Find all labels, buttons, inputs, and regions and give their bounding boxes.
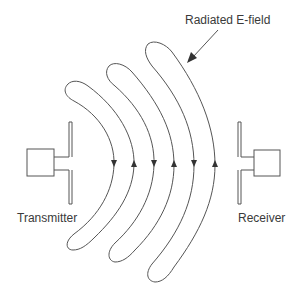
transmitter-antenna xyxy=(27,122,72,204)
arrow-up-icon xyxy=(131,160,137,167)
arrow-down-icon xyxy=(151,160,157,167)
arrow-down-icon xyxy=(191,160,197,167)
arrow-up-icon xyxy=(212,160,218,167)
diagram-canvas xyxy=(0,0,300,303)
field-pointer-line xyxy=(193,30,218,57)
receiver-antenna xyxy=(238,122,280,204)
e-field-diagram: Radiated E-field Transmitter Receiver xyxy=(0,0,300,303)
field-loop-2 xyxy=(107,64,174,262)
field-label: Radiated E-field xyxy=(185,14,270,26)
receiver-label: Receiver xyxy=(238,212,285,224)
arrow-down-icon xyxy=(111,160,117,167)
transmitter-label: Transmitter xyxy=(17,212,77,224)
arrow-up-icon xyxy=(171,160,177,167)
